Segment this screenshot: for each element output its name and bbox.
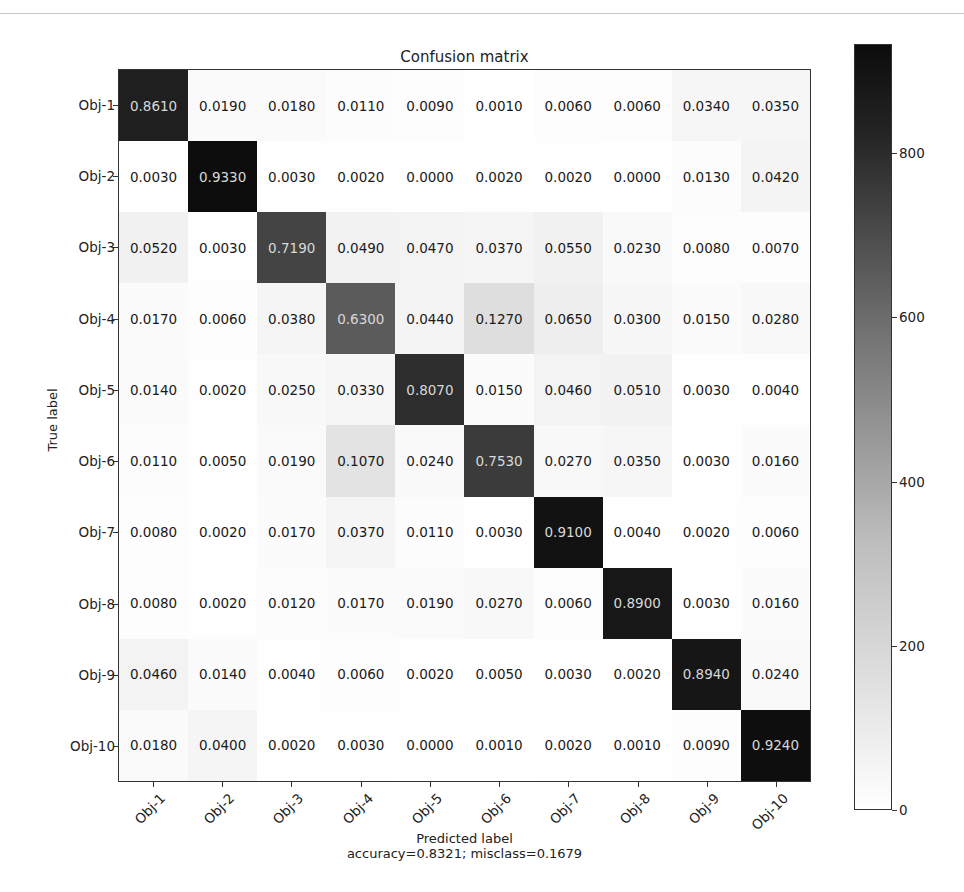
matrix-cell: 0.0190 (188, 70, 257, 141)
matrix-cell: 0.0050 (188, 425, 257, 496)
matrix-cell: 0.8610 (119, 70, 188, 141)
matrix-cell: 0.9330 (188, 141, 257, 212)
matrix-cell: 0.0000 (395, 141, 464, 212)
x-tick-mark (776, 782, 777, 787)
x-axis-title: Predicted label (118, 831, 811, 846)
x-tick-label: Obj-1 (131, 790, 168, 827)
matrix-cell: 0.0020 (188, 568, 257, 639)
matrix-cell: 0.0020 (188, 497, 257, 568)
colorbar-tick-mark (892, 317, 897, 318)
matrix-cell: 0.0190 (395, 568, 464, 639)
matrix-cell: 0.0110 (119, 425, 188, 496)
matrix-cell: 0.0030 (464, 497, 533, 568)
matrix-cell: 0.0030 (257, 141, 326, 212)
x-tick-label: Obj-7 (547, 790, 584, 827)
matrix-cell: 0.0060 (603, 70, 672, 141)
y-tick-label: Obj-1 (79, 97, 115, 113)
matrix-cell: 0.0510 (603, 354, 672, 425)
matrix-cell: 0.0170 (257, 497, 326, 568)
colorbar-tick-label: 800 (899, 145, 925, 161)
matrix-cell: 0.6300 (326, 283, 395, 354)
matrix-cell: 0.0020 (534, 141, 603, 212)
matrix-cell: 0.0170 (326, 568, 395, 639)
matrix-cell: 0.0250 (257, 354, 326, 425)
matrix-cell: 0.0170 (119, 283, 188, 354)
matrix-cell: 0.0040 (257, 639, 326, 710)
matrix-cell: 0.0020 (326, 141, 395, 212)
y-tick-label: Obj-8 (79, 596, 115, 612)
y-tick-label: Obj-3 (79, 239, 115, 255)
matrix-cell: 0.0110 (326, 70, 395, 141)
colorbar-tick-mark (892, 153, 897, 154)
x-tick-label: Obj-10 (749, 790, 792, 833)
matrix-cell: 0.8900 (603, 568, 672, 639)
chart-title: Confusion matrix (118, 48, 811, 66)
matrix-cell: 0.0010 (464, 710, 533, 781)
matrix-cell: 0.0080 (119, 497, 188, 568)
matrix-cell: 0.9240 (741, 710, 810, 781)
matrix-cell: 0.0140 (119, 354, 188, 425)
matrix-cell: 0.0020 (603, 639, 672, 710)
matrix-cell: 0.0460 (119, 639, 188, 710)
matrix-cell: 0.0010 (603, 710, 672, 781)
colorbar-tick-mark (892, 482, 897, 483)
matrix-cell: 0.0020 (188, 354, 257, 425)
matrix-cell: 0.0060 (741, 497, 810, 568)
matrix-cell: 0.0420 (741, 141, 810, 212)
matrix-cell: 0.0350 (741, 70, 810, 141)
y-tick-label: Obj-9 (79, 667, 115, 683)
x-tick-mark (222, 782, 223, 787)
matrix-cell: 0.0070 (741, 212, 810, 283)
matrix-cell: 0.0030 (672, 354, 741, 425)
colorbar (854, 44, 892, 810)
matrix-cell: 0.0060 (534, 70, 603, 141)
y-tick-label: Obj-2 (79, 168, 115, 184)
matrix-cell: 0.1270 (464, 283, 533, 354)
x-tick-label: Obj-5 (408, 790, 445, 827)
matrix-cell: 0.0240 (395, 425, 464, 496)
matrix-cell: 0.0340 (672, 70, 741, 141)
matrix-cell: 0.8070 (395, 354, 464, 425)
page-top-rule (0, 13, 964, 14)
matrix-cell: 0.0090 (672, 710, 741, 781)
matrix-cell: 0.0160 (741, 568, 810, 639)
matrix-cell: 0.0150 (464, 354, 533, 425)
matrix-cell: 0.0440 (395, 283, 464, 354)
matrix-cell: 0.0020 (534, 710, 603, 781)
colorbar-tick-label: 0 (899, 802, 908, 818)
matrix-cell: 0.0120 (257, 568, 326, 639)
x-tick-mark (707, 782, 708, 787)
x-tick-label: Obj-3 (269, 790, 306, 827)
matrix-cell: 0.1070 (326, 425, 395, 496)
matrix-cell: 0.0060 (188, 283, 257, 354)
matrix-cell: 0.0050 (464, 639, 533, 710)
matrix-cell: 0.0020 (464, 141, 533, 212)
matrix-cell: 0.0110 (395, 497, 464, 568)
y-tick-label: Obj-5 (79, 382, 115, 398)
y-tick-label: Obj-7 (79, 524, 115, 540)
matrix-cell: 0.0030 (119, 141, 188, 212)
colorbar-tick-mark (892, 646, 897, 647)
matrix-cell: 0.0160 (741, 425, 810, 496)
matrix-cell: 0.0080 (672, 212, 741, 283)
matrix-cell: 0.0030 (326, 710, 395, 781)
matrix-cell: 0.0550 (534, 212, 603, 283)
matrix-cell: 0.0140 (188, 639, 257, 710)
matrix-cell: 0.0520 (119, 212, 188, 283)
matrix-cell: 0.0350 (603, 425, 672, 496)
matrix-cell: 0.0060 (534, 568, 603, 639)
matrix-cell: 0.7190 (257, 212, 326, 283)
matrix-cell: 0.0030 (672, 568, 741, 639)
matrix-cell: 0.0030 (534, 639, 603, 710)
matrix-cell: 0.7530 (464, 425, 533, 496)
matrix-cell: 0.0150 (672, 283, 741, 354)
colorbar-tick-label: 400 (899, 474, 925, 490)
matrix-cell: 0.0370 (326, 497, 395, 568)
matrix-cell: 0.0020 (672, 497, 741, 568)
matrix-cell: 0.0330 (326, 354, 395, 425)
matrix-cell: 0.0470 (395, 212, 464, 283)
colorbar-tick-mark (892, 810, 897, 811)
matrix-cell: 0.0040 (741, 354, 810, 425)
matrix-cell: 0.0270 (534, 425, 603, 496)
matrix-cell: 0.0380 (257, 283, 326, 354)
